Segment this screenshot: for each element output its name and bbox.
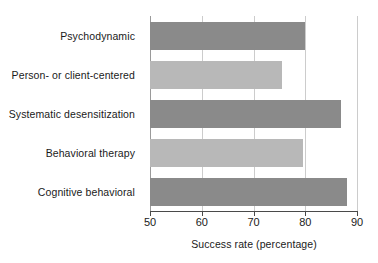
category-axis-labels: Psychodynamic Person- or client-centered… xyxy=(0,16,143,211)
bar xyxy=(150,139,303,167)
x-axis-title: Success rate (percentage) xyxy=(150,239,358,250)
gridline-90 xyxy=(357,16,358,211)
plot-area xyxy=(150,16,357,211)
tick-label-90: 90 xyxy=(342,217,372,228)
category-label-systematic-desensitization: Systematic desensitization xyxy=(9,109,135,120)
bar xyxy=(150,178,347,206)
tick-label-60: 60 xyxy=(187,217,217,228)
category-label-behavioral-therapy: Behavioral therapy xyxy=(46,148,135,159)
bar xyxy=(150,22,305,50)
bar xyxy=(150,61,282,89)
bar xyxy=(150,100,341,128)
tick-label-80: 80 xyxy=(290,217,320,228)
bar-chart: Psychodynamic Person- or client-centered… xyxy=(0,0,378,263)
tick-label-50: 50 xyxy=(135,217,165,228)
category-label-psychodynamic: Psychodynamic xyxy=(60,31,135,42)
category-label-cognitive-behavioral: Cognitive behavioral xyxy=(38,187,135,198)
tick-label-70: 70 xyxy=(239,217,269,228)
category-label-person-centered: Person- or client-centered xyxy=(12,70,135,81)
